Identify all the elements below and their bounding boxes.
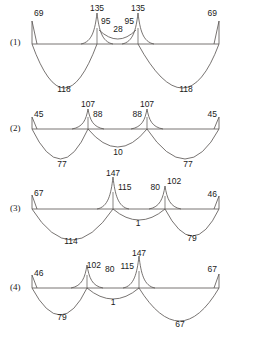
sag-curve-2-2 [88, 129, 147, 147]
moment-value-above-1-2: 135 [90, 3, 104, 13]
sag-curve-4-3 [139, 288, 219, 321]
moment-value-above-1-1: 69 [34, 8, 44, 18]
moment-value-below-3-2: 1 [136, 218, 141, 228]
moment-value-below-3-1: 114 [64, 236, 78, 246]
bending-moment-figure: (1)6913595289513569118118(2)451078888107… [0, 0, 255, 337]
moment-diagram-2: (2)45107888810745771077 [10, 99, 219, 169]
moment-value-above-3-4: 80 [151, 182, 161, 192]
diagram-label-4: (4) [10, 282, 21, 292]
moment-value-above-1-3: 95 [101, 16, 111, 26]
sag-curve-2-3 [147, 129, 219, 159]
moment-value-below-4-1: 79 [57, 312, 67, 322]
moment-value-below-2-3: 77 [183, 159, 193, 169]
moment-value-above-4-2: 102 [87, 260, 101, 270]
moment-value-above-4-5: 147 [132, 248, 146, 258]
moment-diagram-3: (3)671471158010246114179 [10, 168, 219, 246]
diagram-label-3: (3) [10, 203, 21, 213]
moment-value-above-2-4: 88 [133, 109, 143, 119]
moment-value-above-4-1: 46 [34, 268, 44, 278]
sag-curve-4-1 [32, 288, 87, 315]
moment-value-above-3-6: 46 [208, 189, 218, 199]
moment-value-below-1-2: 118 [179, 84, 193, 94]
sag-curve-2-1 [32, 129, 88, 159]
moment-value-above-2-5: 107 [140, 99, 154, 109]
moment-value-above-2-6: 45 [208, 109, 218, 119]
sag-curve-3-3 [165, 209, 219, 236]
moment-value-below-1-1: 118 [57, 84, 71, 94]
moment-value-above-1-5: 95 [125, 16, 135, 26]
moment-value-above-2-2: 107 [81, 99, 95, 109]
moment-value-above-3-3: 115 [118, 182, 132, 192]
moment-value-above-2-3: 88 [93, 109, 103, 119]
moment-value-below-2-1: 77 [57, 159, 67, 169]
moment-value-above-4-3: 80 [105, 264, 115, 274]
diagram-label-2: (2) [10, 123, 21, 133]
end-support-1-2 [214, 21, 219, 44]
moment-diagram-4: (4)46102801151476779167 [10, 248, 219, 329]
moment-value-above-3-1: 67 [34, 188, 44, 198]
moment-value-above-3-2: 147 [106, 168, 120, 178]
sag-curve-1-2 [138, 44, 219, 88]
end-support-4-2 [214, 274, 219, 288]
moment-value-below-4-2: 1 [111, 297, 116, 307]
moment-value-above-1-6: 135 [131, 3, 145, 13]
bending-moment-svg: (1)6913595289513569118118(2)451078888107… [0, 0, 255, 337]
moment-value-below-3-3: 79 [187, 233, 197, 243]
moment-value-above-1-7: 69 [208, 8, 218, 18]
end-support-1-1 [32, 21, 37, 44]
moment-value-above-2-1: 45 [34, 109, 44, 119]
moment-value-below-2-2: 10 [113, 147, 123, 157]
sag-curve-1-1 [32, 44, 97, 88]
moment-value-below-4-3: 67 [175, 319, 185, 329]
diagram-label-1: (1) [10, 37, 21, 47]
moment-value-above-3-5: 102 [167, 176, 181, 186]
moment-value-above-1-4: 28 [113, 24, 123, 34]
moment-value-above-4-6: 67 [208, 264, 218, 274]
moment-diagram-1: (1)6913595289513569118118 [10, 3, 219, 94]
moment-value-above-4-4: 115 [120, 261, 134, 271]
